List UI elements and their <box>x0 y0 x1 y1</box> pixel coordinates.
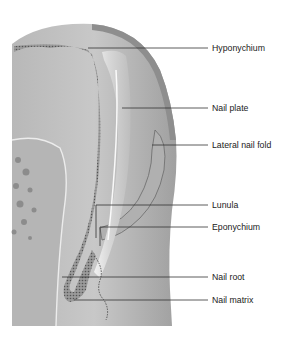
label-nail-matrix: Nail matrix <box>212 294 253 306</box>
label-lateral-nail-fold: Lateral nail fold <box>212 139 271 151</box>
label-nail-root: Nail root <box>212 271 245 283</box>
label-hyponychium: Hyponychium <box>212 42 265 54</box>
label-nail-plate: Nail plate <box>212 102 248 114</box>
label-lunula: Lunula <box>212 199 238 211</box>
label-eponychium: Eponychium <box>212 221 260 233</box>
